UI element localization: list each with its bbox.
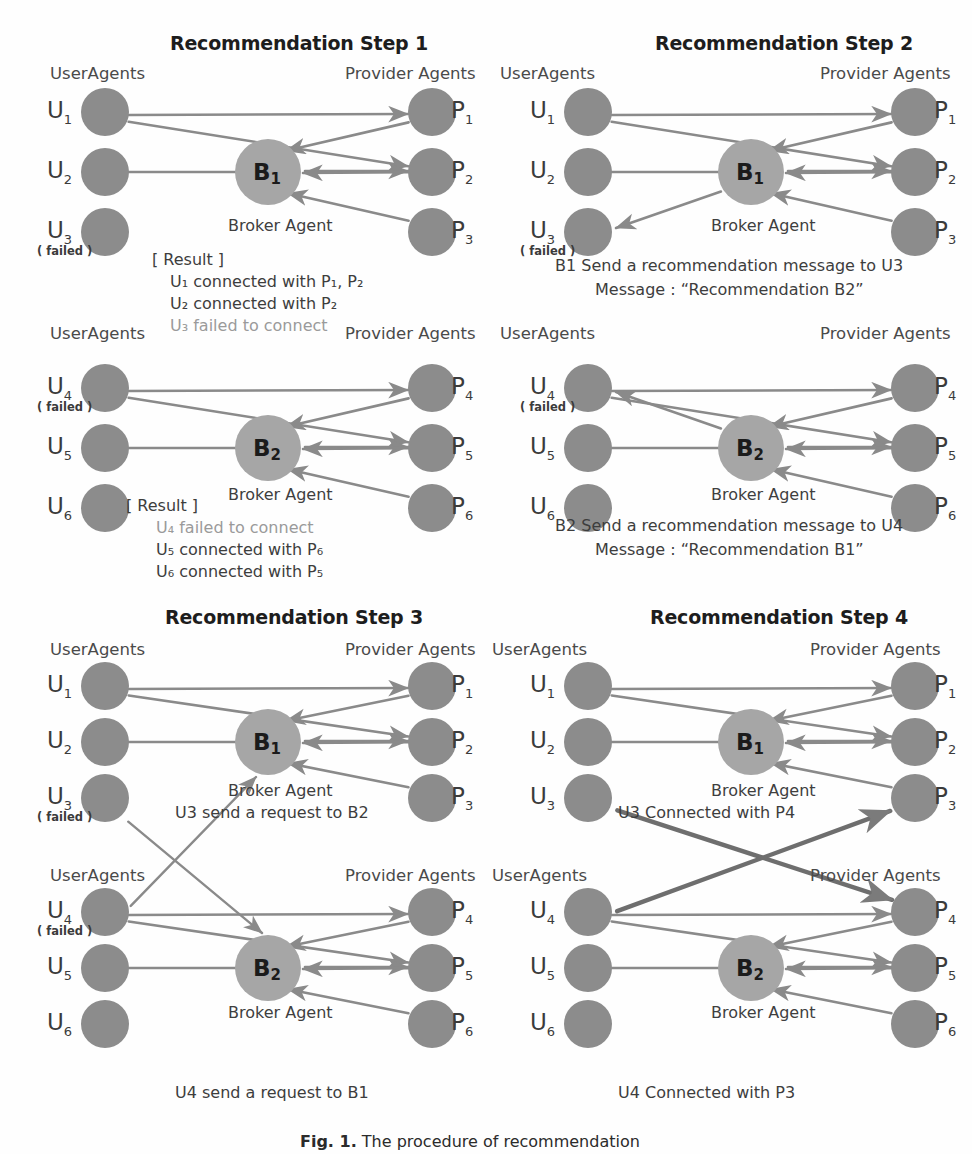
node-layer: B1B2B1B2B1B2B1B2 — [0, 0, 972, 1154]
figure-canvas: B1B2B1B2B1B2B1B2 Recommendation Step 1Us… — [0, 0, 972, 1154]
node-provider-P1-step2[interactable]: P1 — [934, 99, 956, 126]
node-provider-P4-step1b[interactable]: P4 — [451, 375, 473, 402]
provider-agents-heading-step4b: Provider Agents — [810, 868, 941, 885]
failed-tag-U4-step3b: ( failed ) — [37, 926, 92, 938]
node-provider-P3-step3[interactable]: P3 — [451, 785, 473, 812]
node-user-U2-step1[interactable]: U2 — [47, 159, 72, 186]
failed-tag-U3-step1: ( failed ) — [37, 246, 92, 258]
node-user-U2-step2[interactable]: U2 — [530, 159, 555, 186]
node-provider-P1-step1[interactable]: P1 — [451, 99, 473, 126]
node-user-U6-step4b[interactable]: U6 — [530, 1011, 555, 1038]
broker-agent-caption-step1: Broker Agent — [228, 218, 333, 234]
node-provider-P3-step1[interactable]: P3 — [451, 219, 473, 246]
caption-line-step2b-1: Message : “Recommendation B1” — [595, 542, 864, 558]
caption-line-step4-0: U3 Connected with P4 — [618, 805, 795, 821]
provider-agents-heading-step2b: Provider Agents — [820, 326, 951, 343]
caption-line-step3b-0: U4 send a request to B1 — [175, 1085, 369, 1101]
broker-agent-caption-step1b: Broker Agent — [228, 487, 333, 503]
node-user-U5-step1b[interactable]: U5 — [47, 435, 72, 462]
node-user-U3-step2[interactable]: U3 — [530, 219, 555, 246]
caption-line-step2b-0: B2 Send a recommendation message to U4 — [555, 518, 903, 534]
user-agents-heading-step4: UserAgents — [492, 642, 587, 659]
node-provider-P4-step2b[interactable]: P4 — [934, 375, 956, 402]
caption-line-step2-0: B1 Send a recommendation message to U3 — [555, 258, 903, 274]
node-user-U2-step4[interactable]: U2 — [530, 729, 555, 756]
node-user-U3-step1[interactable]: U3 — [47, 219, 72, 246]
user-agents-heading-step1: UserAgents — [50, 66, 145, 83]
caption-line-step4b-0: U4 Connected with P3 — [618, 1085, 795, 1101]
broker-agent-caption-step4: Broker Agent — [711, 783, 816, 799]
node-user-U6-step1b[interactable]: U6 — [47, 495, 72, 522]
node-provider-P3-step2[interactable]: P3 — [934, 219, 956, 246]
node-provider-P5-step2b[interactable]: P5 — [934, 435, 956, 462]
node-provider-P2-step2[interactable]: P2 — [934, 159, 956, 186]
caption-line-step1b-1: U₄ failed to connect — [156, 520, 314, 536]
panel-title-step4: Recommendation Step 4 — [650, 608, 908, 627]
node-user-U4-step3b[interactable]: U4 — [47, 899, 72, 926]
broker-agent-caption-step4b: Broker Agent — [711, 1005, 816, 1021]
panel-title-step3: Recommendation Step 3 — [165, 608, 423, 627]
caption-line-step1-0: [ Result ] — [152, 252, 224, 268]
provider-agents-heading-step3: Provider Agents — [345, 642, 476, 659]
node-provider-P3-step4[interactable]: P3 — [934, 785, 956, 812]
user-agents-heading-step3b: UserAgents — [50, 868, 145, 885]
user-agents-heading-step3: UserAgents — [50, 642, 145, 659]
node-user-U5-step4b[interactable]: U5 — [530, 955, 555, 982]
caption-line-step2-1: Message : “Recommendation B2” — [595, 282, 864, 298]
node-provider-P2-step3[interactable]: P2 — [451, 729, 473, 756]
user-agents-heading-step4b: UserAgents — [492, 868, 587, 885]
caption-line-step1b-3: U₆ connected with P₅ — [156, 564, 323, 580]
user-agents-heading-step1b: UserAgents — [50, 326, 145, 343]
provider-agents-heading-step1: Provider Agents — [345, 66, 476, 83]
node-provider-P5-step1b[interactable]: P5 — [451, 435, 473, 462]
node-user-U4-step4b[interactable]: U4 — [530, 899, 555, 926]
figure-caption-label: Fig. 1. — [300, 1132, 357, 1151]
caption-line-step1-1: U₁ connected with P₁, P₂ — [170, 274, 363, 290]
node-provider-P6-step2b[interactable]: P6 — [934, 495, 956, 522]
broker-agent-caption-step2b: Broker Agent — [711, 487, 816, 503]
panel-title-step2: Recommendation Step 2 — [655, 34, 913, 53]
failed-tag-U4-step2b: ( failed ) — [520, 402, 575, 414]
node-user-U3-step4[interactable]: U3 — [530, 785, 555, 812]
figure-caption-text: The procedure of recommendation — [357, 1132, 640, 1151]
caption-line-step1b-2: U₅ connected with P₆ — [156, 542, 323, 558]
provider-agents-heading-step3b: Provider Agents — [345, 868, 476, 885]
user-agents-heading-step2: UserAgents — [500, 66, 595, 83]
node-user-U1-step2[interactable]: U1 — [530, 99, 555, 126]
node-provider-P6-step4b[interactable]: P6 — [934, 1011, 956, 1038]
node-user-U4-step2b[interactable]: U4 — [530, 375, 555, 402]
provider-agents-heading-step2: Provider Agents — [820, 66, 951, 83]
node-provider-P6-step3b[interactable]: P6 — [451, 1011, 473, 1038]
panel-title-step1: Recommendation Step 1 — [170, 34, 428, 53]
node-provider-P5-step3b[interactable]: P5 — [451, 955, 473, 982]
node-provider-P2-step4[interactable]: P2 — [934, 729, 956, 756]
node-user-U1-step4[interactable]: U1 — [530, 673, 555, 700]
failed-tag-U4-step1b: ( failed ) — [37, 402, 92, 414]
node-provider-P1-step3[interactable]: P1 — [451, 673, 473, 700]
node-provider-P4-step3b[interactable]: P4 — [451, 899, 473, 926]
node-user-U1-step1[interactable]: U1 — [47, 99, 72, 126]
node-user-U1-step3[interactable]: U1 — [47, 673, 72, 700]
node-provider-P6-step1b[interactable]: P6 — [451, 495, 473, 522]
user-agents-heading-step2b: UserAgents — [500, 326, 595, 343]
node-user-U6-step2b[interactable]: U6 — [530, 495, 555, 522]
node-user-U5-step2b[interactable]: U5 — [530, 435, 555, 462]
caption-line-step3-0: U3 send a request to B2 — [175, 805, 369, 821]
node-provider-P5-step4b[interactable]: P5 — [934, 955, 956, 982]
provider-agents-heading-step1b: Provider Agents — [345, 326, 476, 343]
node-provider-P2-step1[interactable]: P2 — [451, 159, 473, 186]
caption-line-step1b-0: [ Result ] — [126, 498, 198, 514]
node-user-U2-step3[interactable]: U2 — [47, 729, 72, 756]
caption-line-step1-3: U₃ failed to connect — [170, 318, 328, 334]
node-provider-P4-step4b[interactable]: P4 — [934, 899, 956, 926]
node-user-U6-step3b[interactable]: U6 — [47, 1011, 72, 1038]
broker-agent-caption-step3: Broker Agent — [228, 783, 333, 799]
figure-caption: Fig. 1. The procedure of recommendation — [300, 1134, 640, 1150]
caption-line-step1-2: U₂ connected with P₂ — [170, 296, 337, 312]
failed-tag-U3-step3: ( failed ) — [37, 812, 92, 824]
provider-agents-heading-step4: Provider Agents — [810, 642, 941, 659]
node-user-U4-step1b[interactable]: U4 — [47, 375, 72, 402]
node-user-U5-step3b[interactable]: U5 — [47, 955, 72, 982]
node-provider-P1-step4[interactable]: P1 — [934, 673, 956, 700]
node-user-U3-step3[interactable]: U3 — [47, 785, 72, 812]
